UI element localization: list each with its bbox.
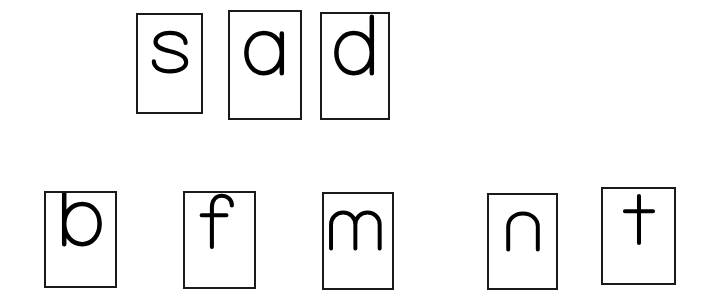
letter-glyph-f: [193, 191, 247, 267]
letter-card-n[interactable]: [487, 193, 558, 290]
letter-card-f[interactable]: [183, 191, 256, 289]
letter-card-d[interactable]: [320, 12, 390, 120]
letter-card-t[interactable]: [601, 187, 676, 285]
letter-glyph-d: [325, 12, 385, 96]
letter-card-b[interactable]: [44, 191, 117, 288]
letter-glyph-s: [142, 14, 198, 92]
letter-flashcard-worksheet: [0, 0, 709, 304]
letter-card-a[interactable]: [228, 10, 302, 120]
letter-card-s[interactable]: [136, 13, 203, 114]
letter-card-m[interactable]: [322, 192, 394, 290]
letter-glyph-b: [51, 191, 111, 267]
letter-glyph-a: [235, 12, 295, 96]
letter-glyph-m: [322, 194, 394, 268]
letter-glyph-t: [612, 187, 666, 263]
letter-glyph-n: [495, 195, 551, 269]
